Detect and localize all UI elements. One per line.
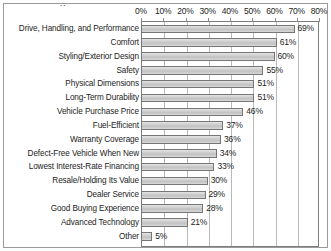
bar-value-label: 33% xyxy=(217,161,233,172)
bar-row: Comfort61% xyxy=(4,36,329,50)
category-label: Vehicle Purchase Price xyxy=(57,106,139,117)
category-label: Advanced Technology xyxy=(61,217,139,228)
bar-value-label: 28% xyxy=(206,203,222,214)
category-label: Fuel-Efficient xyxy=(93,120,139,131)
bar xyxy=(141,218,188,227)
bar-value-label: 37% xyxy=(226,120,242,131)
bar-row: Advanced Technology21% xyxy=(4,216,329,230)
bar-value-label: 29% xyxy=(209,189,225,200)
bar-row: Physical Dimensions51% xyxy=(4,77,329,91)
bar-row: Warranty Coverage36% xyxy=(4,133,329,147)
category-label: Other xyxy=(119,231,139,242)
bar xyxy=(141,38,277,47)
category-label: Resale/Holding Its Value xyxy=(52,175,139,186)
chart-figure: y 0%10%20%30%40%50%60%70%80% Drive, Hand… xyxy=(3,3,328,248)
category-label: Physical Dimensions xyxy=(65,78,139,89)
category-label: Comfort xyxy=(111,37,139,48)
bar-value-label: 60% xyxy=(278,51,294,62)
bar-value-label: 21% xyxy=(191,217,207,228)
bar-row: Vehicle Purchase Price46% xyxy=(4,105,329,119)
bar-value-label: 36% xyxy=(224,134,240,145)
bar xyxy=(141,191,206,200)
bar-row: Good Buying Experience28% xyxy=(4,202,329,216)
category-label: Warranty Coverage xyxy=(70,134,139,145)
bar-value-label: 61% xyxy=(280,37,296,48)
bar xyxy=(141,121,223,130)
bar-value-label: 51% xyxy=(257,92,273,103)
bar xyxy=(141,52,275,61)
x-axis: 0%10%20%30%40%50%60%70%80% xyxy=(4,4,329,21)
bar-value-label: 51% xyxy=(257,78,273,89)
category-label: Styling/Exterior Design xyxy=(58,51,139,62)
bar xyxy=(141,149,217,158)
bar xyxy=(141,204,203,213)
bar xyxy=(141,94,254,103)
bar-row: Lowest Interest-Rate Financing33% xyxy=(4,160,329,174)
bar-row: Safety55% xyxy=(4,64,329,78)
category-label: Dealer Service xyxy=(87,189,139,200)
bar-value-label: 34% xyxy=(220,148,236,159)
bar xyxy=(141,25,295,34)
bar xyxy=(141,135,221,144)
bar xyxy=(141,66,263,75)
bar-value-label: 30% xyxy=(211,175,227,186)
bar-value-label: 69% xyxy=(298,23,314,34)
bar xyxy=(141,108,243,117)
bar-value-label: 55% xyxy=(266,65,282,76)
category-label: Lowest Interest-Rate Financing xyxy=(29,161,139,172)
category-label: Defect-Free Vehicle When New xyxy=(28,148,139,159)
category-label: Safety xyxy=(116,65,139,76)
bar xyxy=(141,163,214,172)
bar-row: Other5% xyxy=(4,230,329,244)
x-axis-tick-label: 80% xyxy=(304,7,331,16)
bar-rows: Drive, Handling, and Performance69%Comfo… xyxy=(4,22,329,244)
bar-row: Styling/Exterior Design60% xyxy=(4,50,329,64)
bar-value-label: 46% xyxy=(246,106,262,117)
category-label: Good Buying Experience xyxy=(51,203,139,214)
category-label: Long-Term Durability xyxy=(65,92,139,103)
bar xyxy=(141,177,208,186)
bar-row: Drive, Handling, and Performance69% xyxy=(4,22,329,36)
bar-value-label: 5% xyxy=(155,231,167,242)
bar xyxy=(141,80,254,89)
bar xyxy=(141,232,152,241)
bar-row: Defect-Free Vehicle When New34% xyxy=(4,147,329,161)
category-label: Drive, Handling, and Performance xyxy=(19,23,139,34)
bar-row: Long-Term Durability51% xyxy=(4,91,329,105)
bar-row: Fuel-Efficient37% xyxy=(4,119,329,133)
bar-row: Dealer Service29% xyxy=(4,188,329,202)
bar-row: Resale/Holding Its Value30% xyxy=(4,174,329,188)
